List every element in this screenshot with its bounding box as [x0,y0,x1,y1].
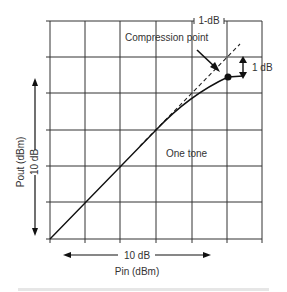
side-1db-label: 1 dB [252,62,273,73]
compression-chart: 1-dB Compression point 1 dB One tone 10 … [0,0,287,292]
x-axis-label: Pin (dBm) [115,266,159,277]
cropped-caption [18,288,269,291]
compression-point-marker [225,74,232,81]
top-1db-label: 1-dB [198,15,219,26]
one-tone-label: One tone [166,148,208,159]
y-span-label: 10 dB [29,149,40,175]
compression-arrow [197,50,220,72]
compression-point-label: Compression point [125,32,209,43]
x-span-label: 10 dB [124,250,150,261]
y-axis-label: Pout (dBm) [15,137,26,188]
one-tone-curve [50,76,243,239]
